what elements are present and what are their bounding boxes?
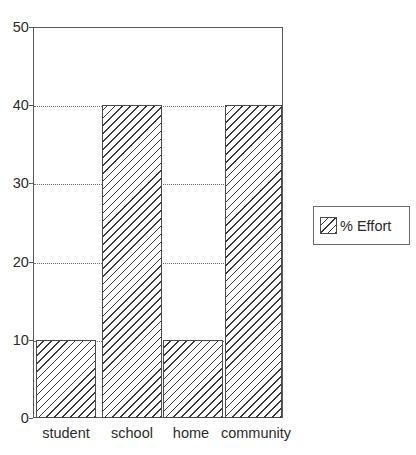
y-axis-tick-label: 10 (1, 333, 29, 348)
y-axis-tick-label: 0 (1, 411, 29, 426)
y-axis-tick-label: 40 (1, 98, 29, 113)
x-axis-tick-label-student: student (32, 424, 100, 442)
y-axis: 50 40 30 20 10 0 (0, 27, 29, 418)
y-axis-tick-label: 30 (1, 176, 29, 191)
bar-home[interactable] (163, 340, 223, 418)
bars-layer (33, 27, 283, 418)
legend: % Effort (313, 206, 410, 245)
x-axis-tick-label-home: home (161, 424, 221, 442)
legend-label-effort: % Effort (340, 218, 391, 234)
x-axis-tick-label-community: community (216, 424, 296, 442)
x-axis: student school home community (33, 424, 283, 446)
bar-chart: 50 40 30 20 10 0 student school home com… (0, 0, 416, 455)
y-axis-tick-label: 50 (1, 20, 29, 35)
bar-school[interactable] (102, 105, 162, 418)
y-axis-tick-mark (29, 418, 33, 419)
y-axis-tick-label: 20 (1, 255, 29, 270)
legend-swatch-icon (320, 217, 337, 234)
bar-community[interactable] (225, 105, 282, 418)
bar-student[interactable] (36, 340, 96, 418)
x-axis-tick-label-school: school (99, 424, 165, 442)
